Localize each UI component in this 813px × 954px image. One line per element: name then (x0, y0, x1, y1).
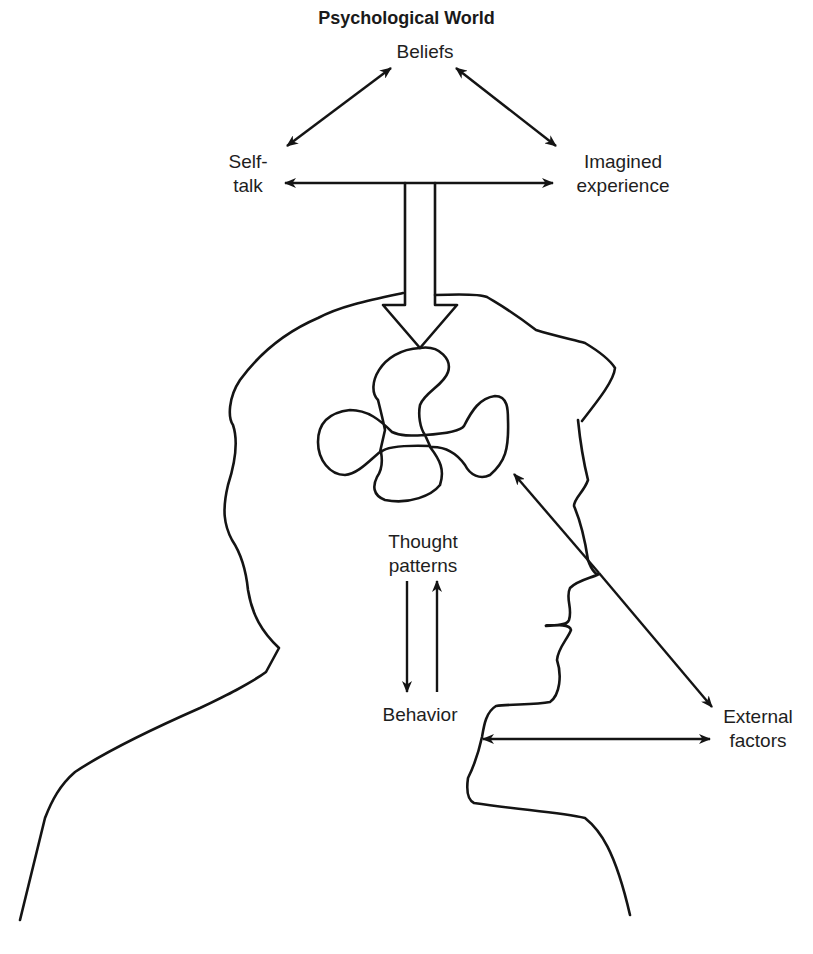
label-self-talk-line1: Self- (218, 150, 278, 174)
head-outline-top (435, 294, 615, 421)
label-behavior: Behavior (370, 703, 470, 727)
head-outline-back (20, 293, 403, 920)
label-self-talk: Self- talk (218, 150, 278, 198)
label-thought-line1: Thought (368, 530, 478, 554)
block-arrow-down (383, 183, 457, 348)
face-to-external-arrow (599, 573, 712, 707)
label-imagined-line2: experience (563, 174, 683, 198)
face-profile (467, 420, 630, 915)
label-external-line2: factors (708, 729, 808, 753)
label-external-factors: External factors (708, 705, 808, 753)
label-imagined-experience: Imagined experience (563, 150, 683, 198)
label-thought-patterns: Thought patterns (368, 530, 478, 578)
brain-icon (318, 348, 508, 502)
label-imagined-line1: Imagined (563, 150, 683, 174)
label-beliefs: Beliefs (390, 40, 460, 64)
beliefs-imagined-arrow (456, 68, 556, 146)
label-self-talk-line2: talk (218, 174, 278, 198)
label-external-line1: External (708, 705, 808, 729)
external-to-brain-arrow (514, 474, 599, 573)
beliefs-selftalk-arrow (287, 68, 391, 146)
diagram-drawing (0, 0, 813, 954)
label-thought-line2: patterns (368, 554, 478, 578)
psychological-world-diagram: Psychological World Beliefs Self- (0, 0, 813, 954)
